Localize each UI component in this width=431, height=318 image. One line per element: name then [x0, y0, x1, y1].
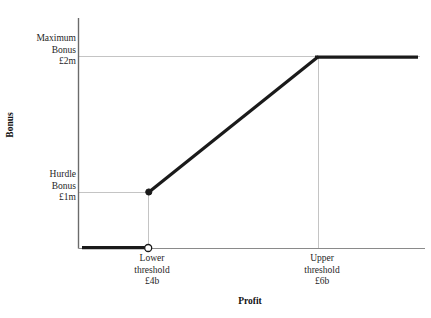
y-axis-title: Bonus	[5, 95, 15, 155]
y-tick-label-hurdle-bonus: Hurdle Bonus £1m	[50, 169, 76, 204]
y-tick-label-maximum-bonus: Maximum Bonus £2m	[36, 33, 76, 68]
x-axis-title: Profit	[190, 296, 310, 306]
marker-open-circle-lower-threshold	[145, 245, 152, 252]
marker-filled-circle-hurdle-bonus	[146, 189, 152, 195]
x-tick-label-upper-threshold: Upper threshold £6b	[262, 253, 382, 288]
chart-container: Maximum Bonus £2m Hurdle Bonus £1m Lower…	[0, 0, 431, 318]
x-tick-label-lower-threshold: Lower threshold £4b	[92, 253, 212, 288]
series-segment-sloped	[149, 57, 318, 192]
